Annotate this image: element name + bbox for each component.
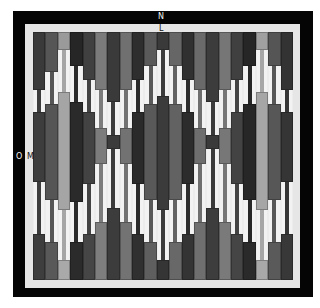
top-block — [281, 32, 293, 90]
bottom-block — [33, 234, 45, 280]
pattern-column — [144, 32, 156, 280]
middle-block — [182, 112, 194, 184]
middle-block — [33, 112, 45, 182]
top-block — [169, 32, 181, 66]
top-block — [219, 32, 231, 90]
bottom-block — [169, 242, 181, 280]
bottom-block — [182, 234, 194, 280]
bottom-block — [219, 222, 231, 280]
middle-block — [58, 92, 70, 210]
top-block — [182, 32, 194, 80]
pattern-column — [219, 32, 231, 280]
top-block — [83, 32, 95, 80]
bottom-block — [45, 242, 57, 280]
top-block — [157, 32, 169, 50]
pattern-column — [243, 32, 255, 280]
bottom-block — [107, 208, 119, 280]
bottom-block — [243, 242, 255, 280]
frame-right — [300, 11, 313, 297]
bottom-block — [206, 208, 218, 280]
middle-block — [268, 104, 280, 200]
pattern-column — [132, 32, 144, 280]
middle-block — [157, 96, 169, 210]
middle-block — [120, 128, 132, 164]
top-block — [107, 32, 119, 102]
pattern-column — [83, 32, 95, 280]
bottom-block — [95, 222, 107, 280]
pattern-column — [45, 32, 57, 280]
bottom-block — [132, 234, 144, 280]
pattern-column — [33, 32, 45, 280]
middle-block — [243, 104, 255, 200]
pattern-column — [256, 32, 268, 280]
pattern-column — [58, 32, 70, 280]
bottom-block — [83, 234, 95, 280]
pattern-column — [194, 32, 206, 280]
middle-block — [144, 104, 156, 200]
bottom-block — [281, 234, 293, 280]
middle-block — [219, 128, 231, 164]
middle-block — [45, 104, 57, 200]
bottom-block — [120, 222, 132, 280]
pattern-column — [95, 32, 107, 280]
middle-block — [256, 92, 268, 210]
middle-block — [194, 128, 206, 164]
top-block — [132, 32, 144, 80]
top-block — [206, 32, 218, 102]
bar-pattern-artwork — [33, 32, 293, 280]
top-block — [33, 32, 45, 90]
top-block — [231, 32, 243, 80]
label-left-inner: M — [27, 153, 34, 161]
top-block — [120, 32, 132, 90]
label-top-inner: L — [159, 25, 163, 33]
top-block — [58, 32, 70, 50]
bottom-block — [58, 260, 70, 280]
pattern-column — [281, 32, 293, 280]
top-block — [268, 32, 280, 66]
pattern-column — [157, 32, 169, 280]
middle-block — [132, 112, 144, 184]
pattern-column — [169, 32, 181, 280]
middle-block — [169, 104, 181, 200]
frame-bottom — [25, 288, 300, 297]
middle-block — [231, 112, 243, 184]
pattern-column — [182, 32, 194, 280]
label-north: N — [158, 13, 164, 21]
top-block — [95, 32, 107, 90]
pattern-column — [120, 32, 132, 280]
pattern-column — [70, 32, 82, 280]
bottom-block — [70, 242, 82, 280]
middle-block — [206, 135, 218, 149]
top-block — [194, 32, 206, 90]
bottom-block — [231, 234, 243, 280]
top-block — [70, 32, 82, 66]
pattern-column — [206, 32, 218, 280]
middle-block — [281, 112, 293, 182]
top-block — [144, 32, 156, 66]
middle-block — [107, 135, 119, 149]
pattern-column — [231, 32, 243, 280]
top-block — [256, 32, 268, 50]
middle-block — [70, 102, 82, 202]
middle-block — [95, 128, 107, 164]
bottom-block — [144, 242, 156, 280]
pattern-column — [268, 32, 280, 280]
bottom-block — [268, 242, 280, 280]
bottom-block — [256, 260, 268, 280]
label-west: O — [16, 153, 22, 161]
middle-block — [83, 112, 95, 184]
bottom-block — [157, 260, 169, 280]
picture-inner-border — [25, 24, 300, 288]
top-block — [45, 32, 57, 72]
bottom-block — [194, 222, 206, 280]
top-block — [243, 32, 255, 66]
pattern-column — [107, 32, 119, 280]
